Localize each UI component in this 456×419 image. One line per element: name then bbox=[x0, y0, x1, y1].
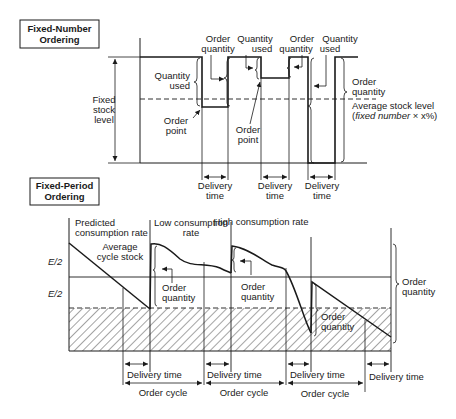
fp-order-quantity-label-2b: quantity bbox=[241, 291, 275, 302]
fp-delivery-time-label-3: Delivery time bbox=[290, 369, 345, 380]
fp-delivery-time-label-4: Delivery time bbox=[369, 371, 424, 382]
quantity-used-brace-2 bbox=[308, 58, 314, 163]
order-quantity-pointer-1 bbox=[211, 55, 224, 79]
fp-order-quantity-brace-1 bbox=[153, 246, 157, 306]
fp-order-quantity-brace-right bbox=[393, 244, 399, 343]
order-cycle-label-3: Order cycle bbox=[301, 388, 350, 399]
average-formula: (fixed number × x%) bbox=[352, 110, 437, 121]
fixed-number-title: Fixed-Number bbox=[28, 23, 92, 34]
order-point-pointer-center bbox=[250, 82, 260, 124]
fixed-number-title-line2: Ordering bbox=[39, 34, 79, 45]
inventory-ordering-diagram: Fixed-Number Ordering Fixed stock level … bbox=[0, 0, 456, 419]
e-half-lower-label: E/2 bbox=[48, 288, 63, 299]
order-cycle-label-1: Order cycle bbox=[139, 387, 188, 398]
fp-order-quantity-label-3b: quantity bbox=[321, 321, 355, 332]
fixed-period-section: Fixed-Period Ordering Predicted consumpt… bbox=[30, 178, 436, 399]
average-cycle-stock-label-2: cycle stock bbox=[97, 251, 144, 262]
fp-order-quantity-pointer-1 bbox=[162, 269, 172, 283]
fp-order-quantity-label-1b: quantity bbox=[162, 292, 196, 303]
delivery-time-label-3b: time bbox=[313, 190, 331, 201]
quantity-used-label-2b: used bbox=[320, 43, 341, 54]
order-quantity-label-right-2: quantity bbox=[352, 86, 386, 97]
quantity-used-label-1b: used bbox=[252, 43, 273, 54]
order-point-label-left-2: point bbox=[166, 125, 187, 136]
fixed-number-section: Fixed-Number Ordering Fixed stock level … bbox=[20, 20, 437, 201]
fixed-period-title: Fixed-Period bbox=[36, 180, 94, 191]
quantity-used-label-left-2: used bbox=[169, 80, 190, 91]
order-point-pointer-left bbox=[193, 110, 200, 118]
high-rate-label: High consumption rate bbox=[213, 216, 308, 227]
low-rate-label-2: rate bbox=[183, 227, 199, 238]
e-half-upper-label: E/2 bbox=[48, 256, 63, 267]
delivery-time-label-2b: time bbox=[266, 190, 284, 201]
predicted-rate-label-2: consumption rate bbox=[75, 227, 148, 238]
fp-delivery-time-label-1: Delivery time bbox=[127, 369, 182, 380]
delivery-time-label-1b: time bbox=[206, 190, 224, 201]
fixed-stock-level-label-3: level bbox=[94, 114, 114, 125]
order-quantity-brace-right bbox=[341, 58, 347, 162]
quantity-used-brace-1 bbox=[255, 58, 259, 79]
order-point-label-center-2: point bbox=[238, 134, 259, 145]
fixed-period-title-line2: Ordering bbox=[44, 191, 84, 202]
fp-order-quantity-pointer-2 bbox=[240, 261, 251, 275]
order-quantity-label-1b: quantity bbox=[201, 43, 235, 54]
fp-delivery-time-label-2: Delivery time bbox=[207, 369, 262, 380]
order-quantity-label-2b: quantity bbox=[279, 43, 313, 54]
fp-order-quantity-brace-2 bbox=[232, 248, 236, 272]
quantity-used-pointer-2 bbox=[314, 55, 326, 86]
order-cycle-label-2: Order cycle bbox=[220, 387, 269, 398]
fp-order-quantity-label-right-2: quantity bbox=[402, 286, 436, 297]
